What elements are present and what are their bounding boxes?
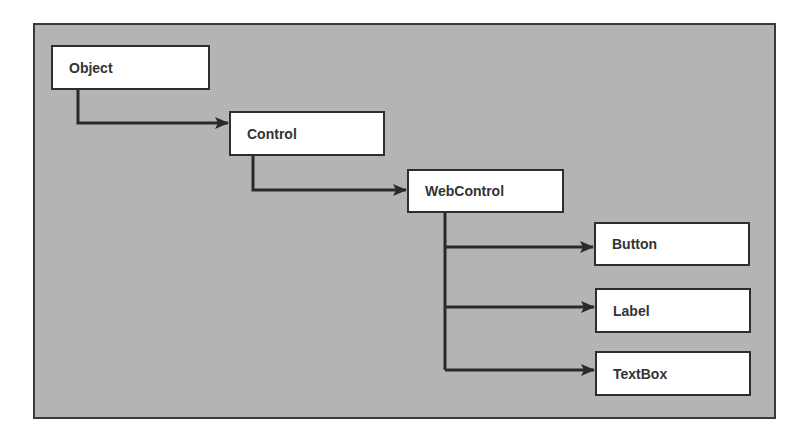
node-label-label: Label — [613, 303, 650, 319]
node-webcontrol: WebControl — [407, 169, 564, 213]
node-control-label: Control — [247, 126, 297, 142]
node-webcontrol-label: WebControl — [425, 183, 504, 199]
node-control: Control — [229, 111, 385, 156]
node-object: Object — [51, 45, 210, 90]
node-textbox: TextBox — [595, 351, 751, 396]
node-object-label: Object — [69, 60, 113, 76]
node-textbox-label: TextBox — [613, 366, 667, 382]
node-button: Button — [594, 222, 750, 266]
node-label: Label — [595, 288, 751, 333]
node-button-label: Button — [612, 236, 657, 252]
